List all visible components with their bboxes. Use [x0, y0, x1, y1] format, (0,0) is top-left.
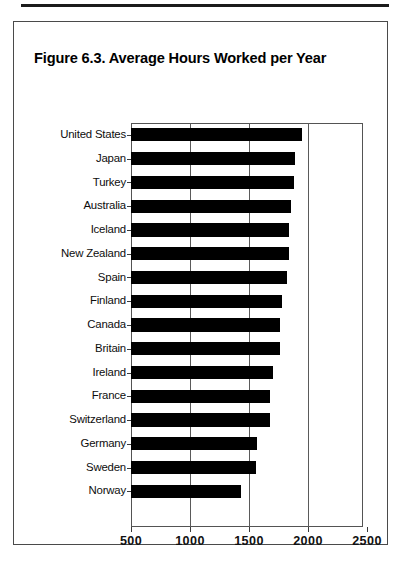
bar-row: Britain — [14, 337, 363, 361]
bar-row: Japan — [14, 147, 363, 171]
bar-row: Germany — [14, 432, 363, 456]
x-axis-label-2000: 2000 — [278, 534, 338, 548]
x-axis-label-500: 500 — [101, 534, 161, 548]
bar-label-iceland: Iceland — [14, 218, 126, 242]
x-axis-tick-1500 — [249, 527, 250, 532]
bar-label-switzerland: Switzerland — [14, 408, 126, 432]
bar-turkey — [131, 176, 294, 189]
bar-row: Finland — [14, 289, 363, 313]
bar-label-spain: Spain — [14, 266, 126, 290]
bar-row: Ireland — [14, 361, 363, 385]
x-axis-tick-2500 — [367, 527, 368, 532]
bar-row: Turkey — [14, 171, 363, 195]
x-axis-tick-2000 — [308, 527, 309, 532]
bar-new-zealand — [131, 247, 289, 260]
x-axis-label-1500: 1500 — [219, 534, 279, 548]
bar-label-sweden: Sweden — [14, 456, 126, 480]
x-axis-tick-500 — [131, 527, 132, 532]
bar-row: Switzerland — [14, 408, 363, 432]
bar-label-britain: Britain — [14, 337, 126, 361]
figure-container: Figure 6.3. Average Hours Worked per Yea… — [13, 21, 388, 545]
bar-label-norway: Norway — [14, 479, 126, 503]
top-page-rule — [21, 4, 389, 7]
bar-row: Australia — [14, 194, 363, 218]
x-axis-label-1000: 1000 — [160, 534, 220, 548]
bar-row: New Zealand — [14, 242, 363, 266]
bar-united-states — [131, 128, 302, 141]
bar-row: United States — [14, 123, 363, 147]
bar-row: Spain — [14, 266, 363, 290]
bar-germany — [131, 437, 257, 450]
bar-iceland — [131, 223, 289, 236]
bar-australia — [131, 200, 291, 213]
bar-row: Sweden — [14, 456, 363, 480]
bar-canada — [131, 318, 280, 331]
bar-row: Canada — [14, 313, 363, 337]
bar-label-turkey: Turkey — [14, 171, 126, 195]
bar-norway — [131, 485, 241, 498]
bar-japan — [131, 152, 295, 165]
bar-finland — [131, 295, 282, 308]
bar-label-australia: Australia — [14, 194, 126, 218]
x-axis-tick-1000 — [190, 527, 191, 532]
bar-switzerland — [131, 413, 270, 426]
bar-row: France — [14, 384, 363, 408]
bar-label-finland: Finland — [14, 289, 126, 313]
bar-label-ireland: Ireland — [14, 361, 126, 385]
bar-sweden — [131, 461, 256, 474]
bar-label-japan: Japan — [14, 147, 126, 171]
bar-row: Iceland — [14, 218, 363, 242]
bar-chart: United StatesJapanTurkeyAustraliaIceland… — [14, 82, 389, 537]
x-axis-label-2500: 2500 — [337, 534, 397, 548]
bar-britain — [131, 342, 280, 355]
bar-spain — [131, 271, 287, 284]
bar-label-france: France — [14, 384, 126, 408]
bar-label-new-zealand: New Zealand — [14, 242, 126, 266]
bar-label-germany: Germany — [14, 432, 126, 456]
bar-label-united-states: United States — [14, 123, 126, 147]
bar-france — [131, 390, 270, 403]
figure-title: Figure 6.3. Average Hours Worked per Yea… — [34, 50, 379, 66]
bar-row: Norway — [14, 479, 363, 503]
bar-label-canada: Canada — [14, 313, 126, 337]
bar-ireland — [131, 366, 273, 379]
